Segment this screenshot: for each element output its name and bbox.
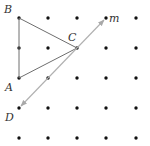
dot-grid xyxy=(17,16,137,139)
grid-dot xyxy=(17,106,20,109)
grid-dot xyxy=(75,106,78,109)
grid-dot xyxy=(46,16,49,19)
grid-dot xyxy=(75,16,78,19)
grid-dot xyxy=(104,76,107,79)
grid-dot xyxy=(104,106,107,109)
label-c: C xyxy=(68,31,77,44)
grid-dot xyxy=(75,136,78,139)
grid-dot xyxy=(104,46,107,49)
grid-dot xyxy=(134,76,137,79)
grid-dot xyxy=(46,106,49,109)
grid-dot xyxy=(17,136,20,139)
grid-dot xyxy=(134,106,137,109)
geometry-diagram: B C A D m xyxy=(0,0,150,146)
grid-dot xyxy=(104,136,107,139)
label-a: A xyxy=(4,81,13,94)
grid-dot xyxy=(46,136,49,139)
grid-dot xyxy=(134,16,137,19)
grid-dot xyxy=(46,46,49,49)
grid-dot xyxy=(104,16,107,19)
label-m: m xyxy=(109,12,119,25)
grid-dot xyxy=(134,136,137,139)
label-b: B xyxy=(3,3,12,16)
grid-dot xyxy=(134,46,137,49)
grid-dot xyxy=(75,76,78,79)
line-m xyxy=(21,20,104,106)
point-labels: B C A D m xyxy=(3,3,119,124)
label-d: D xyxy=(4,111,14,124)
